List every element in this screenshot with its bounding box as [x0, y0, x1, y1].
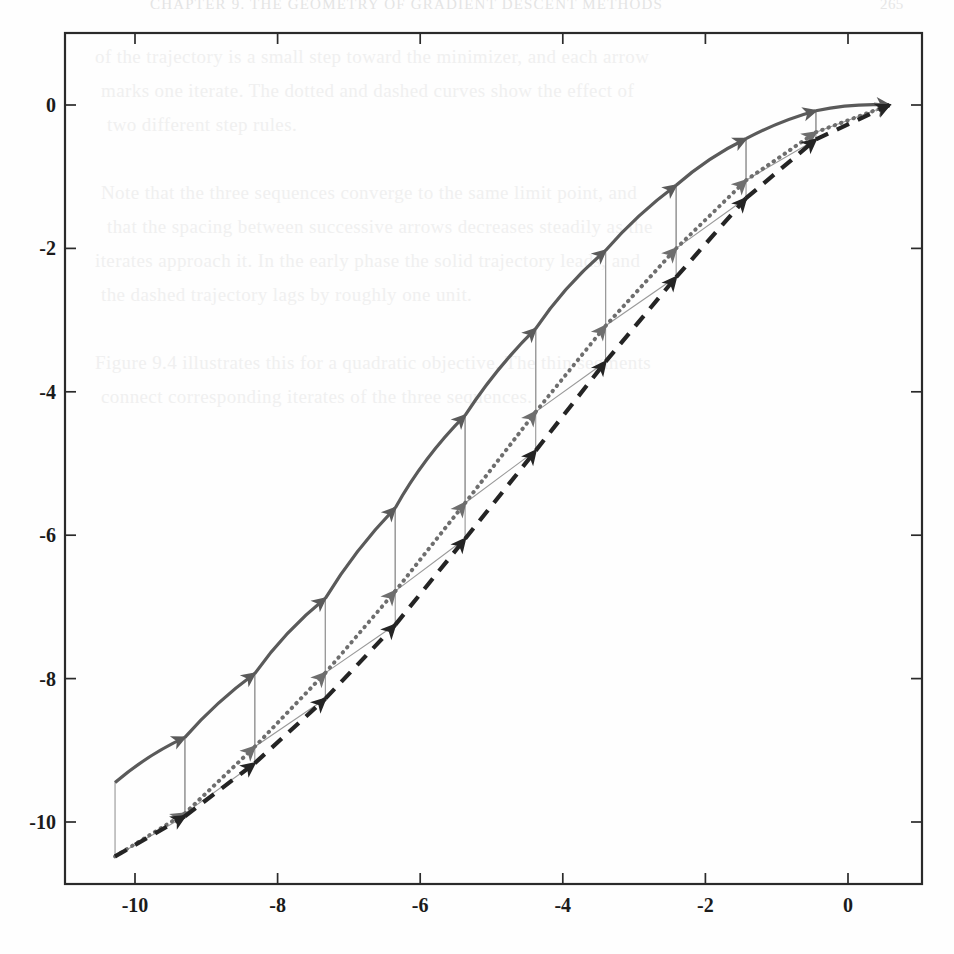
y-tick-label: -10: [29, 811, 56, 834]
x-tick-label: 0: [843, 894, 853, 917]
trajectory-curves: [115, 105, 889, 857]
x-tick-label: -2: [697, 894, 714, 917]
x-tick-label: -4: [554, 894, 571, 917]
iterate-connector-lines: [115, 105, 889, 856]
connector-diagonal: [676, 198, 746, 248]
trajectory-segment: [185, 763, 255, 816]
y-tick-label: -6: [39, 524, 56, 547]
y-tick-label: -2: [39, 237, 56, 260]
trajectory-segment: [325, 508, 395, 598]
y-tick-label: 0: [46, 94, 56, 117]
connector-diagonal: [255, 699, 326, 747]
axis-box-and-ticks: [65, 33, 922, 884]
trajectory-segment: [185, 747, 255, 814]
x-tick-label: -6: [412, 894, 429, 917]
series-dotted-trajectory: [115, 105, 889, 856]
trajectory-segment: [465, 412, 536, 503]
trajectory-segment: [746, 139, 816, 198]
y-tick-label: -4: [39, 380, 56, 403]
x-tick-label: -8: [269, 894, 286, 917]
trajectory-segment: [746, 132, 816, 180]
scanned-page: CHAPTER 9. THE GEOMETRY OF GRADIENT DESC…: [0, 0, 954, 954]
trajectory-segment: [115, 737, 185, 782]
plot-box: [65, 33, 922, 884]
x-tick-label: -10: [122, 894, 149, 917]
trajectory-segment: [606, 185, 677, 250]
trajectory-segment: [465, 329, 536, 416]
trajectory-segment: [395, 415, 465, 507]
series-solid-trajectory: [115, 105, 889, 783]
trajectory-segment: [606, 277, 677, 362]
trajectory-segment: [536, 251, 606, 329]
trajectory-segment: [676, 139, 746, 186]
figure-plot: [0, 0, 954, 954]
trajectory-segment: [746, 111, 816, 139]
series-dashed-trajectory: [115, 105, 889, 856]
trajectory-segment: [536, 362, 606, 451]
y-tick-label: -8: [39, 667, 56, 690]
trajectory-segment: [185, 674, 255, 738]
trajectory-segment: [255, 598, 326, 673]
trajectory-segment: [395, 539, 465, 625]
